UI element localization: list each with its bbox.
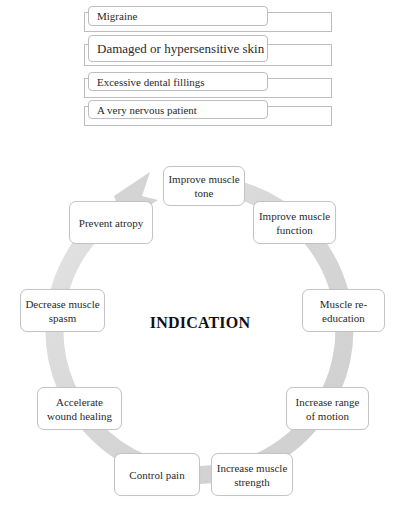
node-label: Improve muscle function <box>258 209 331 237</box>
node-label: Increase range of motion <box>291 395 364 423</box>
node-label: Muscle re-education <box>307 297 380 325</box>
cycle-node-improve-muscle-tone: Improve muscle tone <box>163 166 245 206</box>
cycle-node-increase-range-of-motion: Increase range of motion <box>286 387 369 430</box>
node-label: Improve muscle tone <box>168 172 240 200</box>
node-label: Prevent atropy <box>79 216 143 230</box>
node-label: Accelerate wound healing <box>42 395 117 423</box>
cycle-center-title: INDICATION <box>110 314 290 332</box>
cycle-node-improve-muscle-function: Improve muscle function <box>253 201 336 244</box>
cycle-node-control-pain: Control pain <box>114 453 200 496</box>
cycle-node-decrease-muscle-spasm: Decrease muscle spasm <box>20 289 105 332</box>
cycle-node-prevent-atropy: Prevent atropy <box>69 201 153 244</box>
cycle-ring <box>0 0 406 521</box>
node-label: Increase muscle strength <box>216 461 288 489</box>
node-label: Decrease muscle spasm <box>25 297 100 325</box>
cycle-node-increase-muscle-strength: Increase muscle strength <box>211 453 293 496</box>
cycle-node-accelerate-wound-healing: Accelerate wound healing <box>37 387 122 430</box>
node-label: Control pain <box>129 468 184 482</box>
cycle-node-muscle-re-education: Muscle re-education <box>302 289 385 332</box>
